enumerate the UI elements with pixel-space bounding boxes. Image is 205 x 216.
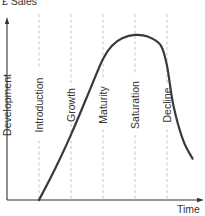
x-axis-label: Time: [177, 203, 200, 215]
stage-label-saturation: Saturation: [129, 81, 141, 129]
stage-label-maturity: Maturity: [97, 86, 109, 124]
product-life-cycle-chart: DevelopmentIntroductionGrowthMaturitySat…: [0, 0, 205, 216]
y-axis-arrow-icon: [5, 17, 9, 24]
y-axis-label: £ Sales: [2, 0, 37, 7]
x-axis-arrow-icon: [197, 198, 204, 202]
stage-label-introduction: Introduction: [33, 77, 45, 132]
stage-labels: DevelopmentIntroductionGrowthMaturitySat…: [1, 69, 173, 140]
stage-label-growth: Growth: [65, 88, 77, 122]
